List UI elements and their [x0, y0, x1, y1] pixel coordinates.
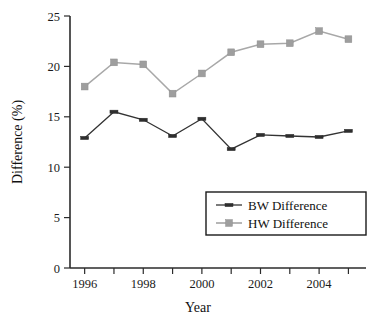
- data-point-hw: [198, 70, 205, 77]
- data-point-hw: [345, 36, 352, 43]
- data-point-hw: [81, 83, 88, 90]
- y-axis-tick-label: 20: [48, 60, 61, 74]
- x-axis-tick-label: 1996: [72, 277, 97, 291]
- data-point-bw: [344, 129, 352, 132]
- data-point-bw: [198, 117, 206, 120]
- x-axis-title: Year: [185, 300, 211, 315]
- legend-label: BW Difference: [248, 198, 328, 213]
- data-point-bw: [110, 110, 118, 113]
- y-axis-tick-label: 10: [48, 161, 61, 175]
- data-point-bw: [256, 133, 264, 136]
- legend-sample-marker: [226, 220, 233, 227]
- y-axis-tick-label: 5: [54, 211, 60, 225]
- data-point-bw: [227, 147, 235, 150]
- data-point-hw: [169, 90, 176, 97]
- series-line-bw: [85, 112, 349, 149]
- chart-figure: 051015202519961998200020022004YearDiffer…: [0, 0, 386, 323]
- series-line-hw: [85, 31, 349, 94]
- data-point-hw: [257, 41, 264, 48]
- x-axis-tick-label: 1998: [131, 277, 156, 291]
- data-point-hw: [316, 28, 323, 35]
- y-axis-tick-label: 15: [48, 110, 61, 124]
- data-point-hw: [140, 61, 147, 68]
- legend-sample-marker: [225, 203, 233, 206]
- y-axis-title: Difference (%): [10, 100, 26, 184]
- x-axis-tick-label: 2004: [307, 277, 333, 291]
- data-point-hw: [228, 49, 235, 56]
- data-point-bw: [286, 134, 294, 137]
- y-axis-tick-label: 25: [48, 10, 61, 24]
- legend-label: HW Difference: [248, 216, 328, 231]
- data-point-hw: [286, 40, 293, 47]
- chart-plot-area: 051015202519961998200020022004YearDiffer…: [0, 0, 386, 323]
- data-point-bw: [139, 118, 147, 121]
- data-point-bw: [169, 134, 177, 137]
- data-point-bw: [81, 136, 89, 139]
- chart-legend: BW DifferenceHW Difference: [206, 192, 366, 235]
- x-axis-tick-label: 2002: [248, 277, 273, 291]
- x-axis-tick-label: 2000: [189, 277, 214, 291]
- data-point-hw: [111, 59, 118, 66]
- y-axis-tick-label: 0: [54, 262, 60, 276]
- data-point-bw: [315, 135, 323, 138]
